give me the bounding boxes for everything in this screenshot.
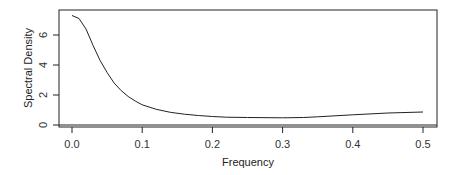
x-axis-title: Frequency (222, 156, 274, 168)
x-tick-label: 0.4 (345, 138, 360, 150)
x-tick-label: 0.5 (415, 138, 430, 150)
plot-frame (59, 10, 437, 127)
x-tick-label: 0.0 (64, 138, 79, 150)
y-axis: 0246 (37, 32, 59, 128)
x-tick-label: 0.3 (275, 138, 290, 150)
y-tick-label: 2 (37, 92, 49, 98)
y-axis-title: Spectral Density (22, 27, 34, 108)
y-tick-label: 6 (37, 32, 49, 38)
x-axis: 0.00.10.20.30.40.5 (64, 127, 430, 150)
y-tick-label: 0 (37, 122, 49, 128)
spectral-density-chart: 0.00.10.20.30.40.5 0246 Frequency Spectr… (0, 0, 456, 175)
x-tick-label: 0.1 (135, 138, 150, 150)
data-line (72, 16, 423, 118)
y-tick-label: 4 (37, 62, 49, 68)
x-tick-label: 0.2 (205, 138, 220, 150)
